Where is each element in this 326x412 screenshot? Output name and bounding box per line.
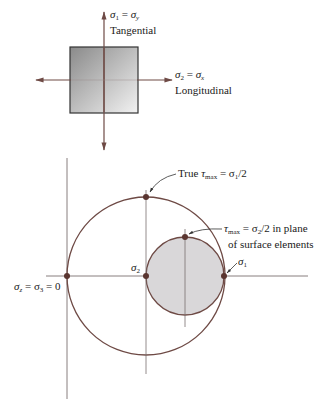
mohr-circle-plot bbox=[46, 158, 308, 399]
longitudinal-label: σ2 = σx Longitudinal bbox=[175, 68, 232, 96]
tangential-caption: Tangential bbox=[110, 24, 156, 36]
plane-tau-max-point bbox=[182, 234, 188, 240]
true-tau-max-label: True τmax = σ1/2 bbox=[178, 167, 247, 183]
origin-label: σz = σ3 = 0 bbox=[14, 280, 61, 296]
true-tau-leader bbox=[150, 174, 176, 192]
plane-tau-max-line2: of surface elements bbox=[228, 238, 314, 250]
longitudinal-caption: Longitudinal bbox=[175, 84, 232, 96]
diagram-canvas bbox=[0, 0, 326, 412]
sigma1-label: σ1 bbox=[238, 255, 247, 271]
true-tau-max-point bbox=[143, 194, 149, 200]
sigma2-point bbox=[143, 273, 149, 279]
sigma2-label: σ2 bbox=[131, 261, 140, 277]
origin-point bbox=[64, 273, 70, 279]
sigma1-point bbox=[221, 273, 227, 279]
tangential-label: σ1 = σy Tangential bbox=[110, 8, 156, 36]
plane-tau-max-label: τmax = σ2/2 in plane of surface elements bbox=[224, 222, 314, 250]
sigma1-leader bbox=[227, 263, 237, 273]
plane-tau-leader bbox=[189, 229, 222, 234]
